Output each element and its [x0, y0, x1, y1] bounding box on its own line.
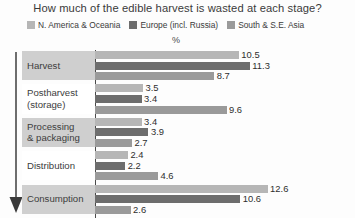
- category-label-line1: Postharvest: [27, 87, 78, 99]
- legend-label: N. America & Oceania: [38, 20, 120, 30]
- category-label-line1: Harvest: [27, 60, 60, 72]
- bar-value-label: 3.4: [144, 118, 157, 126]
- category-label-line1: Distribution: [27, 160, 75, 172]
- bar-value-label: 8.7: [217, 72, 230, 80]
- bar[interactable]: [95, 172, 158, 180]
- legend-item[interactable]: South & S.E. Asia: [227, 20, 304, 30]
- category-label-line2: & packaging: [27, 132, 80, 144]
- legend-label: Europe (incl. Russia): [140, 20, 218, 30]
- legend-label: South & S.E. Asia: [238, 20, 304, 30]
- bar-value-label: 3.5: [145, 84, 158, 92]
- bar[interactable]: [95, 84, 143, 92]
- category-label-line2: (storage): [27, 99, 78, 111]
- bar-row[interactable]: 12.6: [95, 185, 288, 193]
- bar[interactable]: [95, 51, 239, 59]
- bar-row[interactable]: 9.6: [95, 106, 242, 114]
- chart-legend: N. America & OceaniaEurope (incl. Russia…: [27, 20, 304, 30]
- bar-value-label: 2.4: [130, 151, 143, 159]
- bar-value-label: 12.6: [270, 185, 288, 193]
- legend-swatch-icon: [227, 21, 235, 29]
- bar[interactable]: [95, 72, 214, 80]
- chart-title: How much of the edible harvest is wasted…: [0, 2, 355, 14]
- bar-row[interactable]: 2.7: [95, 139, 148, 147]
- bar-value-label: 3.9: [151, 128, 164, 136]
- bar[interactable]: [95, 162, 125, 170]
- bar-value-label: 11.3: [252, 62, 270, 70]
- legend-item[interactable]: Europe (incl. Russia): [129, 20, 218, 30]
- bars-column: 10.511.38.73.53.49.63.43.92.72.42.24.612…: [95, 50, 355, 218]
- bar-value-label: 4.6: [161, 172, 174, 180]
- bar-row[interactable]: 2.6: [95, 206, 146, 214]
- bar-row[interactable]: 10.5: [95, 51, 260, 59]
- bar[interactable]: [95, 206, 131, 214]
- category-label-line1: Processing: [27, 121, 80, 133]
- bar[interactable]: [95, 185, 268, 193]
- bar[interactable]: [95, 128, 148, 136]
- category-label-line1: Consumption: [27, 193, 84, 205]
- bar-row[interactable]: 10.6: [95, 195, 261, 203]
- category-label-4: Distribution: [22, 151, 95, 180]
- bar-value-label: 3.4: [144, 95, 157, 103]
- category-label-5: Consumption: [22, 185, 95, 214]
- bar-row[interactable]: 3.4: [95, 95, 157, 103]
- bar-value-label: 2.2: [128, 162, 141, 170]
- legend-swatch-icon: [129, 21, 137, 29]
- bar-row[interactable]: 8.7: [95, 72, 230, 80]
- bar-row[interactable]: 4.6: [95, 172, 174, 180]
- bar-value-label: 10.6: [243, 195, 261, 203]
- bar-row[interactable]: 11.3: [95, 62, 270, 70]
- bar[interactable]: [95, 139, 132, 147]
- category-label-2: Postharvest(storage): [22, 84, 95, 113]
- bar-row[interactable]: 2.4: [95, 151, 143, 159]
- category-label-3: Processing& packaging: [22, 118, 95, 147]
- bar-value-label: 2.7: [134, 139, 147, 147]
- plot-area: HarvestPostharvest(storage)Processing& p…: [0, 50, 355, 218]
- legend-item[interactable]: N. America & Oceania: [27, 20, 120, 30]
- bar[interactable]: [95, 106, 227, 114]
- bar-value-label: 2.6: [133, 206, 146, 214]
- bar-row[interactable]: 3.5: [95, 84, 158, 92]
- bar[interactable]: [95, 62, 250, 70]
- category-label-column: HarvestPostharvest(storage)Processing& p…: [22, 50, 95, 218]
- bar[interactable]: [95, 195, 240, 203]
- bar-row[interactable]: 2.2: [95, 162, 141, 170]
- legend-swatch-icon: [27, 21, 35, 29]
- bar-row[interactable]: 3.4: [95, 118, 157, 126]
- chart-screenshot: How much of the edible harvest is wasted…: [0, 0, 355, 218]
- category-label-1: Harvest: [22, 51, 95, 80]
- bar[interactable]: [95, 151, 128, 159]
- bar[interactable]: [95, 95, 142, 103]
- bar-value-label: 9.6: [229, 106, 242, 114]
- bar-row[interactable]: 3.9: [95, 128, 164, 136]
- bar[interactable]: [95, 118, 142, 126]
- axis-unit-label: %: [172, 35, 180, 45]
- bar-value-label: 10.5: [241, 51, 259, 59]
